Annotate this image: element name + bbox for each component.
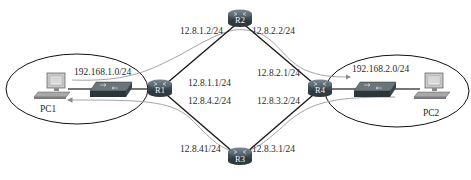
router-r2-icon[interactable]: R2	[228, 10, 252, 28]
iface-r1-r2-label: 12.8.1.1/24	[188, 78, 231, 88]
iface-r2-r1-label: 12.8.1.2/24	[180, 26, 223, 36]
iface-r3-r4-label: 12.8.3.1/24	[252, 144, 295, 154]
router-r4-icon[interactable]: R4	[308, 80, 332, 98]
iface-r1-r3-label: 12.8.4.2/24	[188, 96, 231, 106]
router-r1-label: R1	[155, 85, 165, 95]
router-r4-label: R4	[315, 85, 326, 95]
router-r1-icon[interactable]: R1	[148, 80, 172, 98]
pc1-computer-icon[interactable]	[34, 73, 70, 99]
iface-r2-r4-label: 12.8.2.2/24	[252, 26, 295, 36]
pc2-computer-icon[interactable]	[414, 73, 450, 99]
router-r3-label: R3	[235, 154, 245, 164]
lan2-network-label: 192.168.2.0/24	[352, 64, 410, 74]
pc1-label: PC1	[40, 104, 57, 114]
iface-r4-r3-label: 12.8.3.2/24	[257, 96, 300, 106]
pc2-label: PC2	[423, 108, 440, 118]
lan1-network-label: 192.168.1.0/24	[74, 67, 132, 77]
switch2-icon[interactable]	[354, 82, 396, 97]
router-r2-label: R2	[235, 15, 245, 25]
switch1-icon[interactable]	[90, 82, 132, 97]
iface-r3-r1-label: 12.8.41/24	[180, 144, 221, 154]
return-path-curve	[68, 97, 395, 152]
iface-r4-r2-label: 12.8.2.1/24	[257, 68, 300, 78]
network-diagram: PC1 PC2 R1 R2	[0, 0, 471, 180]
router-r3-icon[interactable]: R3	[228, 148, 252, 166]
